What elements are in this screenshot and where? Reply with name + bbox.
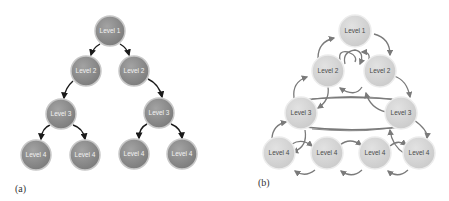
node-level2-right: Level 2 [119, 56, 149, 86]
node-level4-2: Level 4 [70, 140, 100, 170]
edge-l1-l2right [374, 34, 390, 55]
edge-l2right-l3right-outer [394, 76, 410, 97]
edge-l2right-l3right [148, 79, 162, 97]
svg-text:Level 4: Level 4 [317, 149, 338, 156]
edge-l4a-l3left [272, 122, 286, 138]
svg-text:Level 3: Level 3 [51, 110, 72, 117]
edge-l1-l2right [120, 44, 129, 55]
edge-l2-bottom-loop [340, 87, 362, 93]
svg-text:Level 3: Level 3 [291, 109, 312, 116]
nodes-a: Level 1 Level 2 Level 2 Level 3 Level 3 … [21, 16, 197, 170]
svg-text:Level 4: Level 4 [172, 150, 193, 157]
node-level1: Level 1 [95, 16, 125, 46]
node-level4-1: Level 4 [21, 140, 51, 170]
diagram-canvas: Level 1 Level 2 Level 2 Level 3 Level 3 … [0, 0, 449, 201]
edge-l3right-l4d [171, 124, 182, 138]
edge-l4c-l4d-top [390, 142, 406, 146]
edge-l4c-l4d-bottom [388, 170, 408, 175]
node-level3-right: Level 3 [385, 97, 417, 129]
edge-l2left-l3left [64, 81, 73, 98]
diagram-a: Level 1 Level 2 Level 2 Level 3 Level 3 … [15, 16, 197, 195]
node-level4-4: Level 4 [403, 137, 435, 169]
node-level4-2: Level 4 [311, 137, 343, 169]
edge-l3right-l2right-inner [366, 93, 386, 112]
svg-text:Level 2: Level 2 [76, 67, 97, 74]
svg-text:Level 4: Level 4 [124, 150, 145, 157]
caption-a: (a) [15, 183, 26, 195]
edge-l4b-l4c-bottom [341, 170, 362, 175]
node-level2-left: Level 2 [312, 55, 344, 87]
node-level2-right: Level 2 [364, 55, 396, 87]
edge-l3left-l4b [73, 125, 85, 139]
edge-l1-l2left [91, 44, 100, 55]
node-level1: Level 1 [339, 15, 371, 47]
edge-l3right-l4d [414, 120, 427, 138]
svg-text:Level 4: Level 4 [75, 151, 96, 158]
node-level4-4: Level 4 [167, 139, 197, 169]
diagram-b: Level 1 Level 2 Level 2 Level 3 Level 3 … [258, 15, 435, 189]
svg-text:Level 2: Level 2 [124, 67, 145, 74]
svg-text:Level 4: Level 4 [365, 149, 386, 156]
edge-l3left-l4a [41, 125, 50, 139]
node-level3-right: Level 3 [144, 98, 174, 128]
node-level4-3: Level 4 [359, 137, 391, 169]
svg-text:Level 1: Level 1 [345, 27, 366, 34]
node-level3-left: Level 3 [285, 97, 317, 129]
svg-text:Level 4: Level 4 [26, 151, 47, 158]
caption-b: (b) [258, 177, 270, 189]
node-level4-1: Level 4 [263, 137, 295, 169]
edge-l3right-l4c [139, 124, 147, 138]
svg-text:Level 1: Level 1 [100, 27, 121, 34]
svg-text:Level 3: Level 3 [391, 109, 412, 116]
svg-text:Level 3: Level 3 [149, 109, 170, 116]
node-level2-left: Level 2 [71, 56, 101, 86]
node-level3-left: Level 3 [46, 99, 76, 129]
svg-text:Level 4: Level 4 [409, 149, 430, 156]
node-level4-3: Level 4 [119, 139, 149, 169]
svg-text:Level 2: Level 2 [318, 67, 339, 74]
svg-text:Level 2: Level 2 [370, 67, 391, 74]
edge-l2left-l3left-outer [294, 77, 307, 98]
edge-l4b-l4c-top [340, 141, 361, 145]
svg-text:Level 4: Level 4 [269, 149, 290, 156]
edge-l4a-l4b-bottom [295, 170, 315, 174]
